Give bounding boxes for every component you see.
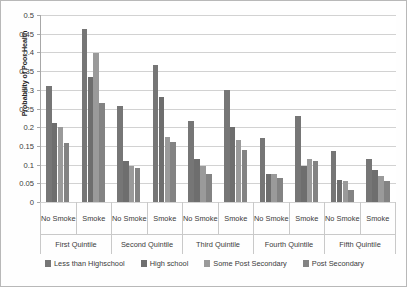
bar xyxy=(236,140,241,202)
smoke-status-row: No SmokeSmoke xyxy=(112,202,182,235)
bar xyxy=(99,103,104,202)
bar xyxy=(64,143,69,202)
bar xyxy=(82,29,87,202)
legend-label: Some Post Secondary xyxy=(213,259,287,268)
bar xyxy=(307,159,312,202)
bar xyxy=(266,174,271,202)
bar xyxy=(188,121,193,202)
bar xyxy=(165,137,170,202)
bar xyxy=(260,138,265,202)
legend-label: Post Secondary xyxy=(312,259,364,268)
bar xyxy=(129,166,134,202)
y-tick-label: 0.4 xyxy=(23,48,34,57)
bar xyxy=(230,127,235,202)
bar xyxy=(159,97,164,202)
quintile-group: No SmokeSmokeFifth Quintile xyxy=(325,202,396,254)
smoke-status-row: No SmokeSmoke xyxy=(254,202,324,235)
legend-label: High school xyxy=(150,259,189,268)
smoke-status-label: Smoke xyxy=(218,202,254,234)
smoke-status-row: No SmokeSmoke xyxy=(41,202,111,235)
legend-swatch-icon xyxy=(141,260,147,267)
bars-layer xyxy=(40,15,396,202)
bar xyxy=(242,150,247,202)
smoke-status-label: Smoke xyxy=(76,202,112,234)
legend-item: Less than Highschool xyxy=(45,259,125,268)
quintile-label: First Quintile xyxy=(41,235,111,254)
quintile-group: No SmokeSmokeSecond Quintile xyxy=(112,202,183,254)
legend-swatch-icon xyxy=(45,260,51,267)
smoke-status-label: No Smoke xyxy=(183,202,218,234)
legend-swatch-icon xyxy=(303,260,309,267)
bar xyxy=(378,176,383,202)
chart-legend: Less than HighschoolHigh schoolSome Post… xyxy=(1,259,408,268)
legend-swatch-icon xyxy=(204,260,210,267)
smoke-status-row: No SmokeSmoke xyxy=(325,202,395,235)
y-tick-label: 0.3 xyxy=(23,85,34,94)
bar xyxy=(123,161,128,202)
bar xyxy=(153,65,158,202)
bar xyxy=(170,142,175,202)
smoke-status-row: No SmokeSmoke xyxy=(183,202,253,235)
quintile-group: No SmokeSmokeFirst Quintile xyxy=(40,202,112,254)
bar xyxy=(343,181,348,202)
plot-area: 00.050.10.150.20.250.30.350.40.450.5 xyxy=(40,15,396,202)
legend-item: High school xyxy=(141,259,189,268)
bar xyxy=(135,168,140,202)
legend-item: Some Post Secondary xyxy=(204,259,287,268)
y-tick-label: 0 xyxy=(30,198,34,207)
bar xyxy=(295,116,300,202)
bar xyxy=(301,166,306,202)
bar xyxy=(58,127,63,202)
bar xyxy=(337,180,342,202)
bar xyxy=(46,86,51,202)
bar xyxy=(200,166,205,202)
y-tick-label: 0.15 xyxy=(19,141,34,150)
y-tick-label: 0.05 xyxy=(19,179,34,188)
bar xyxy=(348,190,353,202)
smoke-status-label: Smoke xyxy=(289,202,325,234)
y-tick-label: 0.2 xyxy=(23,123,34,132)
bar xyxy=(366,159,371,202)
bar xyxy=(88,77,93,202)
quintile-label: Fourth Quintile xyxy=(254,235,324,254)
bar xyxy=(52,123,57,202)
smoke-status-label: No Smoke xyxy=(112,202,147,234)
bar xyxy=(194,159,199,202)
y-tick-label: 0.45 xyxy=(19,29,34,38)
bar xyxy=(313,161,318,202)
bar xyxy=(331,151,336,202)
quintile-group: No SmokeSmokeThird Quintile xyxy=(183,202,254,254)
y-tick-label: 0.5 xyxy=(23,11,34,20)
y-tick-label: 0.35 xyxy=(19,67,34,76)
quintile-label: Second Quintile xyxy=(112,235,182,254)
bar xyxy=(277,178,282,202)
bar xyxy=(271,174,276,202)
bar xyxy=(224,90,229,202)
smoke-status-label: No Smoke xyxy=(254,202,289,234)
quintile-group: No SmokeSmokeFourth Quintile xyxy=(254,202,325,254)
smoke-status-label: Smoke xyxy=(147,202,183,234)
bar xyxy=(117,106,122,202)
y-tick-label: 0.1 xyxy=(23,160,34,169)
x-axis-labels: No SmokeSmokeFirst QuintileNo SmokeSmoke… xyxy=(40,202,396,254)
quintile-label: Fifth Quintile xyxy=(325,235,395,254)
y-tick-label: 0.25 xyxy=(19,104,34,113)
bar xyxy=(384,181,389,202)
bar xyxy=(206,174,211,202)
smoke-status-label: No Smoke xyxy=(41,202,76,234)
legend-label: Less than Highschool xyxy=(54,259,125,268)
smoke-status-label: Smoke xyxy=(360,202,396,234)
quintile-label: Third Quintile xyxy=(183,235,253,254)
legend-item: Post Secondary xyxy=(303,259,364,268)
smoke-status-label: No Smoke xyxy=(325,202,360,234)
bar xyxy=(93,53,98,202)
chart-frame: Probability of Poor Health 00.050.10.150… xyxy=(0,0,407,287)
bar xyxy=(372,170,377,202)
